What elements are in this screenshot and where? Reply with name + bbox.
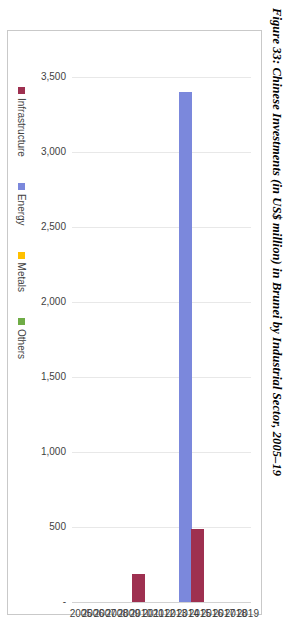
legend-swatch-icon bbox=[18, 252, 25, 259]
gridline bbox=[72, 377, 251, 378]
bar-infrastructure-2010 bbox=[132, 574, 145, 603]
gridline bbox=[72, 227, 251, 228]
legend-label: Metals bbox=[16, 263, 27, 292]
legend-swatch-icon bbox=[18, 183, 25, 190]
value-axis-tick-label: 1,500 bbox=[41, 371, 66, 382]
value-axis-tick-label: 3,500 bbox=[41, 71, 66, 82]
gridline bbox=[72, 452, 251, 453]
chart-legend: InfrastructureEnergyMetalsOthers bbox=[16, 87, 27, 359]
value-axis-tick-label: 2,000 bbox=[41, 296, 66, 307]
bar-infrastructure-2015 bbox=[191, 529, 204, 603]
gridline bbox=[72, 527, 251, 528]
gridline bbox=[72, 152, 251, 153]
value-axis-tick-label: 500 bbox=[49, 521, 66, 532]
legend-item-infrastructure[interactable]: Infrastructure bbox=[16, 87, 27, 157]
legend-label: Energy bbox=[16, 194, 27, 226]
legend-label: Infrastructure bbox=[16, 98, 27, 157]
legend-item-metals[interactable]: Metals bbox=[16, 252, 27, 292]
legend-swatch-icon bbox=[18, 318, 25, 325]
category-axis-tick-label: 2019 bbox=[237, 608, 259, 619]
legend-item-others[interactable]: Others bbox=[16, 318, 27, 359]
figure-stage: Figure 33: Chinese Investments (in US$ m… bbox=[0, 0, 290, 623]
value-axis-tick-label: 1,000 bbox=[41, 446, 66, 457]
plot-area: -5001,0001,5002,0002,5003,0003,500200520… bbox=[72, 71, 251, 602]
figure-title: Figure 33: Chinese Investments (in US$ m… bbox=[269, 8, 284, 476]
legend-item-energy[interactable]: Energy bbox=[16, 183, 27, 226]
bar-energy-2014 bbox=[179, 92, 192, 602]
chart-panel: -5001,0001,5002,0002,5003,0003,500200520… bbox=[7, 30, 262, 615]
gridline bbox=[72, 302, 251, 303]
value-axis-tick-label: - bbox=[63, 596, 66, 607]
legend-swatch-icon bbox=[18, 87, 25, 94]
value-axis-tick-label: 3,000 bbox=[41, 146, 66, 157]
gridline bbox=[72, 77, 251, 78]
value-axis-tick-label: 2,500 bbox=[41, 221, 66, 232]
legend-label: Others bbox=[16, 329, 27, 359]
value-axis-line bbox=[72, 602, 251, 603]
